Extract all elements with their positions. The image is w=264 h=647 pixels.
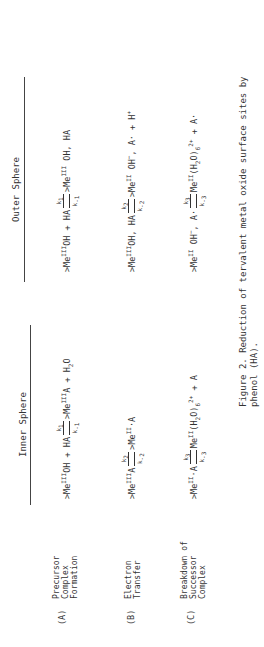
equilibrium-arrow-icon: k3k-3 [182, 194, 205, 208]
row-c-label: Breakdown of Successor Complex [180, 541, 207, 599]
outer-sphere-header: Outer Sphere [11, 157, 21, 222]
equilibrium-arrow-icon: k3k-3 [182, 450, 205, 464]
row-c-id: (C) [186, 610, 196, 625]
inner-sphere-header: Inner Sphere [18, 392, 28, 457]
equilibrium-arrow-icon: k1k-1 [55, 421, 78, 435]
outer-sphere-rule [24, 77, 25, 282]
row-a-outer-equation: >MeIIIOH + HA k1k-1 >MeIII OH, HA [55, 130, 78, 272]
document-page: Inner Sphere Outer Sphere (A) Precursor … [0, 0, 264, 647]
row-c-outer-equation: >MeII OH−, A· k3k-3 MeII(H2O)62+ + A· [182, 114, 205, 272]
row-b-inner-equation: >MeIIIA k2k-2 >MeII·A [120, 417, 143, 499]
row-c-inner-equation: >MeII·A k3k-3 MeII(H2O)62+ + A [182, 375, 205, 499]
row-b-label: Electron Transfer [124, 560, 142, 599]
row-a-id: (A) [57, 610, 67, 625]
row-a-inner-equation: >MeIIIOH + HA k1k-1 >MeIIIA + H2O [55, 358, 78, 499]
equilibrium-arrow-icon: k2k-2 [120, 199, 143, 213]
equilibrium-arrow-icon: k2k-2 [120, 452, 143, 466]
row-a-label: Precursor Complex Formation [52, 556, 79, 599]
equilibrium-arrow-icon: k1k-1 [55, 194, 78, 208]
inner-sphere-rule [30, 325, 31, 505]
figure-caption: Figure 2. Reduction of tervalent metal o… [238, 76, 260, 407]
row-b-id: (B) [126, 610, 136, 625]
row-b-outer-equation: >MeIIIOH, HA k2k-2 >MeII OH−, A· + H+ [120, 111, 143, 272]
